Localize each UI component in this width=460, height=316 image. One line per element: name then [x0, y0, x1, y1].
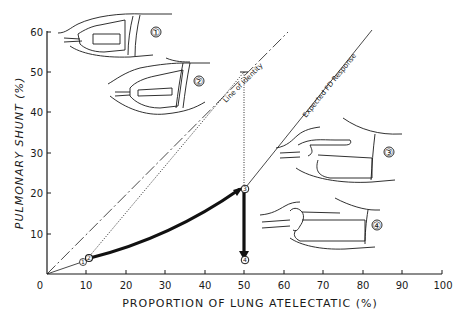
- expected-fd-response-label: Expected FD Response: [301, 52, 358, 119]
- illustration-label-4: ④: [373, 220, 382, 231]
- x-tick-20: 20: [120, 280, 133, 291]
- svg-text:4: 4: [243, 256, 247, 263]
- point-marker-4: 4: [241, 256, 249, 264]
- y-tick-60: 60: [30, 27, 43, 38]
- illustration-label-3: ③: [385, 147, 394, 158]
- x-tick-80: 80: [357, 280, 370, 291]
- x-tick-0: 0: [37, 280, 43, 291]
- x-tick-50: 50: [238, 280, 251, 291]
- y-tick-labels: 10 20 30 40 50 60: [30, 27, 43, 240]
- alveolus-illustration-3: [276, 118, 402, 182]
- line-of-identity-label: Line of Identity: [222, 62, 265, 105]
- y-axis-label: PULMONARY SHUNT (%): [13, 77, 26, 229]
- x-tick-30: 30: [159, 280, 172, 291]
- chart: 0 10 20 30 40 50 60 70 80 90 100 10 20 3…: [0, 0, 460, 316]
- y-tick-10: 10: [30, 229, 43, 240]
- x-tick-90: 90: [396, 280, 409, 291]
- x-tick-70: 70: [317, 280, 330, 291]
- x-tick-60: 60: [278, 280, 291, 291]
- x-tick-labels: 0 10 20 30 40 50 60 70 80 90 100: [37, 280, 453, 291]
- point-marker-3: 3: [241, 185, 249, 193]
- y-tick-40: 40: [30, 107, 43, 118]
- observed-response-curve: [90, 189, 240, 258]
- svg-text:1: 1: [81, 258, 85, 265]
- y-tick-20: 20: [30, 188, 43, 199]
- point-marker-2: 2: [86, 254, 93, 262]
- svg-text:2: 2: [87, 254, 91, 261]
- x-tick-100: 100: [433, 280, 452, 291]
- illustration-label-1: ①: [152, 27, 161, 38]
- alveolus-illustration-4: [260, 198, 382, 249]
- y-tick-50: 50: [30, 67, 43, 78]
- x-axis-label: PROPORTION OF LUNG ATELECTATIC (%): [122, 297, 378, 310]
- illustration-label-2: ②: [195, 76, 204, 87]
- x-tick-40: 40: [199, 280, 212, 291]
- x-tick-10: 10: [80, 280, 93, 291]
- svg-text:3: 3: [243, 185, 247, 192]
- y-tick-30: 30: [30, 148, 43, 159]
